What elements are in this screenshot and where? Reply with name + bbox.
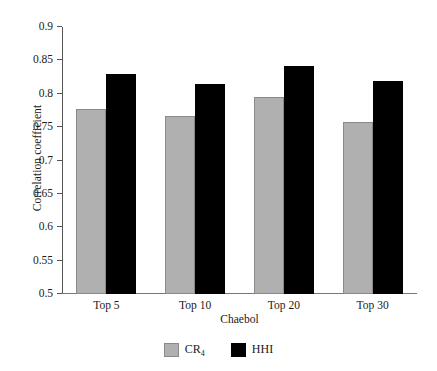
y-tick: 0.8 [57,93,62,94]
legend-swatch-cr4 [164,343,179,357]
y-tick-label: 0.65 [33,185,53,201]
bar-group [254,27,314,294]
bar-chart-figure: Correlation coefficient 0.50.550.60.650.… [0,0,437,371]
bar-cr4-top-20 [254,97,284,294]
legend-entry-cr4: CR4 [164,342,205,357]
bar-cr4-top-30 [343,122,373,294]
legend-entry-hhi: HHI [231,342,273,357]
y-tick: 0.55 [57,260,62,261]
chart-legend: CR4HHI [0,342,437,357]
bar-cr4-top-10 [165,116,195,294]
y-tick: 0.75 [57,126,62,127]
plot-area: 0.50.550.60.650.70.750.80.850.9 Top 5Top… [62,27,417,294]
y-tick-label: 0.55 [33,252,53,268]
y-tick: 0.65 [57,193,62,194]
bar-group [76,27,136,294]
legend-label-cr4: CR4 [185,342,205,357]
y-tick: 0.6 [57,226,62,227]
legend-swatch-hhi [231,343,246,357]
bar-cr4-top-5 [76,109,106,294]
bar-group [165,27,225,294]
y-tick: 0.9 [57,26,62,27]
y-tick-label: 0.9 [39,18,53,34]
x-tick-label: Top 30 [328,299,417,311]
y-tick: 0.85 [57,59,62,60]
y-tick-label: 0.5 [39,285,53,301]
bar-hhi-top-10 [195,84,225,294]
bar-hhi-top-20 [284,66,314,294]
y-tick-label: 0.8 [39,85,53,101]
y-tick-label: 0.75 [33,118,53,134]
x-tick-label: Top 5 [62,299,151,311]
y-tick-label: 0.6 [39,218,53,234]
y-tick: 0.5 [57,293,62,294]
y-tick-label: 0.85 [33,51,53,67]
y-axis-line [62,27,63,294]
x-axis-title: Chaebol [62,313,417,325]
legend-label-hhi: HHI [252,342,273,357]
bar-group [343,27,403,294]
bar-hhi-top-30 [373,81,403,294]
x-tick-label: Top 10 [151,299,240,311]
y-tick-label: 0.7 [39,152,53,168]
x-tick-label: Top 20 [240,299,329,311]
bar-hhi-top-5 [106,74,136,294]
y-tick: 0.7 [57,160,62,161]
